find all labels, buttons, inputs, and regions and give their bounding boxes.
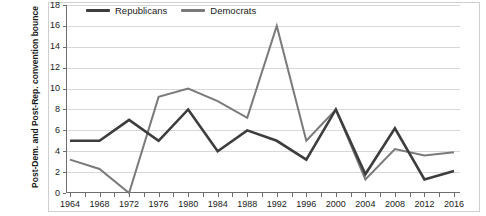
plot-area xyxy=(66,5,460,193)
y-tick-label: 14 xyxy=(44,42,60,51)
y-tick-label: 16 xyxy=(44,21,60,30)
x-tick-mark xyxy=(277,193,278,197)
x-tick-mark-minor xyxy=(351,193,352,197)
x-tick-mark-minor xyxy=(292,193,293,197)
y-tick-label: 2 xyxy=(44,168,60,177)
x-tick-mark-minor xyxy=(410,193,411,197)
x-tick-mark xyxy=(159,193,160,197)
x-tick-mark xyxy=(218,193,219,197)
x-tick-mark-minor xyxy=(144,193,145,197)
legend-label-democrats: Democrats xyxy=(210,6,256,16)
x-tick-mark-minor xyxy=(114,193,115,197)
y-tick-label: 0 xyxy=(44,189,60,198)
x-tick-mark xyxy=(247,193,248,197)
y-tick-label: 6 xyxy=(44,126,60,135)
x-tick-mark-minor xyxy=(203,193,204,197)
series-lines xyxy=(66,5,460,193)
x-tick-label: 2016 xyxy=(437,200,471,209)
chart-screenshot: Post-Dem. and Post-Rep. convention bounc… xyxy=(0,0,486,216)
y-tick-label: 18 xyxy=(44,1,60,10)
y-tick-mark xyxy=(63,193,66,194)
legend-label-republicans: Republicans xyxy=(115,6,167,16)
legend-item-democrats: Democrats xyxy=(181,6,256,16)
x-tick-mark-minor xyxy=(173,193,174,197)
x-tick-mark xyxy=(336,193,337,197)
series-line-democrats xyxy=(70,26,454,193)
x-tick-mark xyxy=(365,193,366,197)
x-tick-mark-minor xyxy=(232,193,233,197)
y-tick-label: 12 xyxy=(44,63,60,72)
x-tick-mark xyxy=(70,193,71,197)
y-tick-label: 10 xyxy=(44,84,60,93)
y-axis-title: Post-Dem. and Post-Rep. convention bounc… xyxy=(30,2,40,192)
legend-swatch-democrats xyxy=(181,9,205,12)
x-tick-mark xyxy=(100,193,101,197)
x-tick-mark-minor xyxy=(85,193,86,197)
x-tick-mark-minor xyxy=(262,193,263,197)
x-tick-mark-minor xyxy=(380,193,381,197)
x-tick-mark xyxy=(188,193,189,197)
x-tick-mark xyxy=(454,193,455,197)
legend-swatch-republicans xyxy=(86,9,110,12)
y-tick-label: 4 xyxy=(44,147,60,156)
x-tick-mark xyxy=(395,193,396,197)
x-tick-mark-minor xyxy=(439,193,440,197)
y-tick-label: 8 xyxy=(44,105,60,114)
x-tick-mark xyxy=(424,193,425,197)
chart-legend: Republicans Democrats xyxy=(86,6,256,16)
x-tick-mark-minor xyxy=(321,193,322,197)
series-line-republicans xyxy=(70,109,454,179)
legend-item-republicans: Republicans xyxy=(86,6,167,16)
x-tick-mark xyxy=(306,193,307,197)
